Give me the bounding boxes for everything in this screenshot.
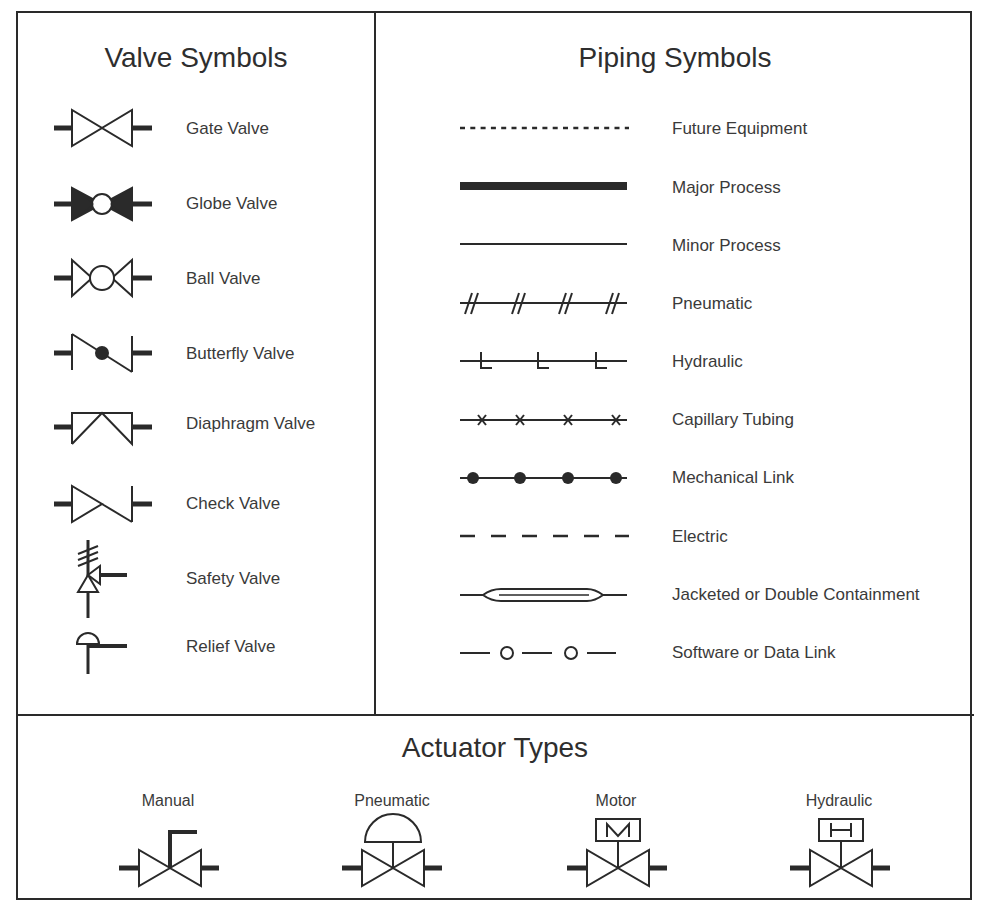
valve-label: Globe Valve — [186, 194, 277, 214]
thick-line-icon — [459, 178, 631, 194]
check-valve-icon — [50, 484, 160, 524]
globe-valve-icon — [50, 184, 160, 224]
valve-label: Gate Valve — [186, 119, 269, 139]
piping-label: Pneumatic — [672, 294, 752, 314]
valve-label: Butterfly Valve — [186, 344, 294, 364]
valve-label: Relief Valve — [186, 637, 275, 657]
valve-label: Ball Valve — [186, 269, 260, 289]
butterfly-valve-icon — [50, 330, 160, 374]
piping-label: Hydraulic — [672, 352, 743, 372]
diaphragm-valve-icon — [50, 410, 160, 446]
thin-line-icon — [459, 236, 631, 252]
safety-valve-icon — [70, 538, 140, 620]
valve-label: Safety Valve — [186, 569, 280, 589]
x-mark-line-icon — [459, 410, 631, 430]
horizontal-divider — [16, 714, 974, 716]
actuator-label: Pneumatic — [332, 792, 452, 810]
hydraulic-actuator-icon — [786, 816, 896, 888]
valve-label: Diaphragm Valve — [186, 414, 315, 434]
l-tick-line-icon — [459, 350, 631, 376]
piping-label: Jacketed or Double Containment — [672, 585, 920, 605]
manual-actuator-icon — [115, 826, 225, 888]
circle-link-line-icon — [459, 643, 631, 663]
valve-label: Check Valve — [186, 494, 280, 514]
ball-valve-icon — [50, 257, 160, 299]
double-hash-line-icon — [459, 290, 631, 318]
relief-valve-icon — [70, 628, 140, 676]
gate-valve-icon — [50, 108, 160, 148]
valve-symbols-title: Valve Symbols — [18, 42, 374, 74]
dashed-line-icon — [459, 528, 631, 544]
actuator-label: Manual — [108, 792, 228, 810]
piping-label: Future Equipment — [672, 119, 807, 139]
pneumatic-actuator-icon — [338, 812, 448, 888]
piping-label: Major Process — [672, 178, 781, 198]
actuator-label: Motor — [556, 792, 676, 810]
motor-actuator-icon — [563, 816, 673, 888]
vertical-divider — [374, 11, 376, 715]
actuator-label: Hydraulic — [779, 792, 899, 810]
piping-label: Capillary Tubing — [672, 410, 794, 430]
piping-label: Software or Data Link — [672, 643, 835, 663]
dot-line-icon — [459, 468, 631, 488]
piping-label: Electric — [672, 527, 728, 547]
actuator-types-title: Actuator Types — [16, 732, 974, 764]
piping-label: Minor Process — [672, 236, 781, 256]
piping-label: Mechanical Link — [672, 468, 794, 488]
dotted-line-icon — [459, 120, 631, 136]
piping-symbols-title: Piping Symbols — [376, 42, 974, 74]
jacketed-line-icon — [459, 585, 631, 605]
